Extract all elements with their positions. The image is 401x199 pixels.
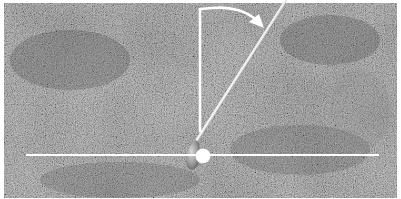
- golf-alignment-figure: [0, 0, 401, 199]
- golf-ball: [196, 149, 211, 164]
- figure-canvas: [0, 0, 401, 199]
